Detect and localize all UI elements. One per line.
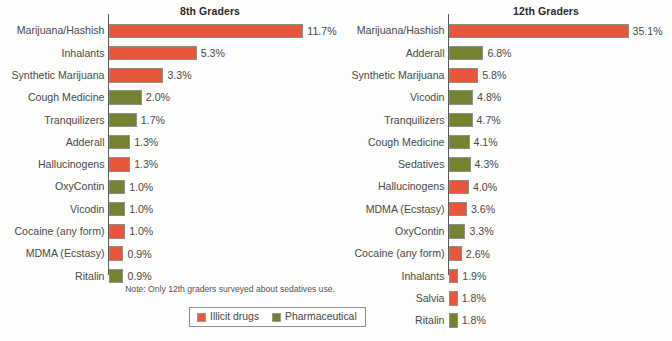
- bar-value-label: 4.8%: [477, 90, 501, 104]
- bar: [109, 246, 124, 261]
- bar-category-label: Cocaine (any form): [336, 246, 445, 260]
- bar-value-label: 3.3%: [469, 224, 493, 238]
- bar: [109, 90, 142, 105]
- chart-panel-12th-graders: 12th Graders Marijuana/Hashish35.1%Adder…: [336, 0, 672, 290]
- bar-row: Marijuana/Hashish11.7%: [0, 20, 336, 42]
- bar-value-label: 2.6%: [466, 247, 490, 261]
- bar-category-label: Hallucinogens: [0, 157, 105, 171]
- bar-category-label: Inhalants: [336, 269, 445, 283]
- bar-row: Hallucinogens1.3%: [0, 154, 336, 176]
- bar-row: Sedatives4.3%: [336, 154, 672, 176]
- bar-category-label: Cough Medicine: [336, 135, 445, 149]
- bar-row: Vicodin4.8%: [336, 87, 672, 109]
- bar: [449, 113, 473, 128]
- bar-category-label: OxyContin: [336, 224, 445, 238]
- bar-row: MDMA (Ecstasy)0.9%: [0, 243, 336, 265]
- bar: [109, 24, 304, 39]
- bar-value-label: 4.0%: [473, 180, 497, 194]
- bar-value-label: 1.0%: [129, 180, 153, 194]
- bar-row: Cocaine (any form)2.6%: [336, 243, 672, 265]
- bar-value-label: 3.6%: [471, 202, 495, 216]
- bar-row: Marijuana/Hashish35.1%: [336, 20, 672, 42]
- bar-category-label: Sedatives: [336, 157, 445, 171]
- bar: [449, 246, 462, 261]
- bar-rows-8th-graders: Marijuana/Hashish11.7%Inhalants5.3%Synth…: [0, 20, 336, 288]
- bar-category-label: Synthetic Marijuana: [336, 68, 445, 82]
- chart-title-8th-graders: 8th Graders: [120, 5, 300, 17]
- bar-row: Hallucinogens4.0%: [336, 176, 672, 198]
- bar: [449, 202, 467, 217]
- chart-title-12th-graders: 12th Graders: [456, 5, 636, 17]
- chart-panel-8th-graders: 8th Graders Marijuana/Hashish11.7%Inhala…: [0, 0, 336, 290]
- legend-item-illicit-drugs[interactable]: Illicit drugs: [197, 311, 259, 323]
- bar: [449, 24, 629, 39]
- bar-value-label: 1.9%: [462, 269, 486, 283]
- bar-row: Tranquilizers4.7%: [336, 109, 672, 131]
- bar-value-label: 3.3%: [167, 68, 191, 82]
- bar-row: Tranquilizers1.7%: [0, 109, 336, 131]
- bar-category-label: Ritalin: [0, 269, 105, 283]
- bar-value-label: 1.0%: [129, 224, 153, 238]
- bar-category-label: MDMA (Ecstasy): [336, 202, 445, 216]
- bar: [449, 224, 466, 239]
- bar-category-label: Cocaine (any form): [0, 224, 105, 238]
- bar: [449, 180, 470, 195]
- bar: [109, 135, 131, 150]
- bar: [449, 135, 470, 150]
- bar-row: Inhalants5.3%: [0, 42, 336, 64]
- bar: [109, 224, 126, 239]
- bar-row: Cough Medicine2.0%: [0, 87, 336, 109]
- bar: [109, 180, 126, 195]
- bar-value-label: 1.3%: [134, 135, 158, 149]
- bar-category-label: Vicodin: [336, 90, 445, 104]
- legend-label-pharmaceutical: Pharmaceutical: [285, 311, 357, 323]
- chart-figure: 8th Graders Marijuana/Hashish11.7%Inhala…: [0, 0, 672, 341]
- bar-value-label: 1.0%: [129, 202, 153, 216]
- bar-row: Vicodin1.0%: [0, 198, 336, 220]
- bar-value-label: 0.9%: [127, 247, 151, 261]
- bar: [109, 68, 164, 83]
- bar: [449, 90, 474, 105]
- bar-value-label: 35.1%: [633, 24, 663, 38]
- bar-category-label: Marijuana/Hashish: [336, 23, 445, 37]
- bar-row: Adderall6.8%: [336, 42, 672, 64]
- bar-category-label: Inhalants: [0, 46, 105, 60]
- bar-value-label: 2.0%: [146, 90, 170, 104]
- bar-row: MDMA (Ecstasy)3.6%: [336, 198, 672, 220]
- bar-category-label: Hallucinogens: [336, 179, 445, 193]
- bar-row: OxyContin1.0%: [0, 176, 336, 198]
- bar-value-label: 4.1%: [474, 135, 498, 149]
- legend-item-pharmaceutical[interactable]: Pharmaceutical: [272, 311, 357, 323]
- bar-row: Synthetic Marijuana5.8%: [336, 65, 672, 87]
- bar-row: OxyContin3.3%: [336, 221, 672, 243]
- bar-category-label: Vicodin: [0, 202, 105, 216]
- bar: [449, 157, 471, 172]
- bar-value-label: 11.7%: [307, 24, 336, 38]
- bar-value-label: 6.8%: [487, 46, 511, 60]
- bar: [109, 202, 126, 217]
- bar-value-label: 1.7%: [141, 113, 165, 127]
- bar-category-label: OxyContin: [0, 179, 105, 193]
- bar-category-label: Tranquilizers: [336, 113, 445, 127]
- bar-category-label: Adderall: [0, 135, 105, 149]
- bar-value-label: 1.3%: [134, 157, 158, 171]
- bar-value-label: 1.8%: [462, 313, 486, 327]
- bar-category-label: MDMA (Ecstasy): [0, 246, 105, 260]
- legend-swatch-illicit-icon: [197, 313, 206, 322]
- bar: [109, 46, 197, 61]
- bar-category-label: Adderall: [336, 46, 445, 60]
- legend-label-illicit-drugs: Illicit drugs: [210, 311, 259, 323]
- bar: [449, 46, 484, 61]
- bar-row: Synthetic Marijuana3.3%: [0, 65, 336, 87]
- bar-category-label: Synthetic Marijuana: [0, 68, 105, 82]
- bar-value-label: 5.3%: [201, 46, 225, 60]
- bar: [449, 68, 479, 83]
- chart-legend: Illicit drugs Pharmaceutical: [189, 307, 366, 327]
- bar-value-label: 4.7%: [477, 113, 501, 127]
- bar-value-label: 0.9%: [127, 269, 151, 283]
- bar-value-label: 1.8%: [462, 291, 486, 305]
- bar: [109, 269, 124, 284]
- bar-row: Adderall1.3%: [0, 131, 336, 153]
- bar-category-label: Cough Medicine: [0, 90, 105, 104]
- legend-swatch-pharmaceutical-icon: [272, 313, 281, 322]
